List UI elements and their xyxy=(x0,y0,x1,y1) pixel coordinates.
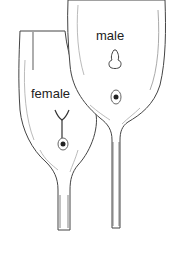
male-label: male xyxy=(96,28,124,43)
female-label: female xyxy=(31,86,70,101)
diagram-illustration xyxy=(0,0,174,260)
